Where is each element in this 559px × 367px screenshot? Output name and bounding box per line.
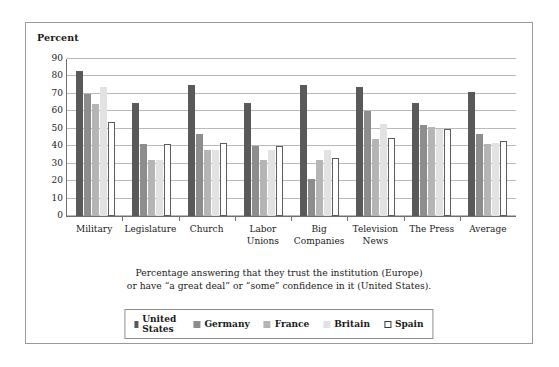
x-axis-cell: Labor Unions <box>235 217 291 261</box>
bar <box>492 143 499 216</box>
bar <box>132 103 139 216</box>
bar <box>76 71 83 216</box>
legend-swatch-icon <box>323 321 330 328</box>
x-axis-cell: Church <box>179 217 235 261</box>
legend-label: Germany <box>204 319 249 329</box>
x-tick <box>347 217 348 221</box>
bar <box>308 179 315 216</box>
bar <box>332 158 339 216</box>
x-axis-cell: Television News <box>347 217 403 261</box>
bar <box>140 144 147 216</box>
x-tick-label: Legislature <box>122 224 178 236</box>
legend-item[interactable]: France <box>264 319 310 329</box>
legend-label: Britain <box>334 319 370 329</box>
legend-swatch-icon <box>264 321 271 328</box>
y-tick-label: 70 <box>52 88 63 98</box>
bar <box>356 87 363 216</box>
bar <box>300 85 307 216</box>
bar <box>428 127 435 216</box>
x-tick <box>291 217 292 221</box>
bar-group <box>179 59 235 216</box>
bar <box>260 160 267 216</box>
y-tick-label: 60 <box>52 105 63 115</box>
bar <box>220 143 227 216</box>
chart-caption: Percentage answering that they trust the… <box>26 266 532 292</box>
y-tick-label: 30 <box>52 158 63 168</box>
bar <box>420 125 427 216</box>
bar-group <box>235 59 291 216</box>
legend-swatch-icon <box>134 321 138 328</box>
bar <box>188 85 195 216</box>
bar <box>92 104 99 216</box>
bar-group <box>348 59 404 216</box>
caption-line-1: Percentage answering that they trust the… <box>26 266 532 279</box>
bar <box>380 124 387 216</box>
bar <box>412 103 419 216</box>
bar-group <box>123 59 179 216</box>
legend-swatch-icon <box>384 321 391 328</box>
bar <box>500 141 507 216</box>
x-tick-label: Church <box>179 224 235 236</box>
bar <box>364 111 371 216</box>
bar <box>468 92 475 216</box>
y-tick-label: 40 <box>52 140 63 150</box>
legend-item[interactable]: United States <box>134 314 179 334</box>
y-tick-label: 20 <box>52 175 63 185</box>
x-tick <box>460 217 461 221</box>
bar <box>444 129 451 216</box>
x-tick-label: Average <box>460 224 516 236</box>
x-tick-label: The Press <box>404 224 460 236</box>
bar <box>484 144 491 216</box>
bar <box>156 160 163 216</box>
x-tick-label: Television News <box>347 224 403 247</box>
bar <box>324 150 331 216</box>
bar <box>252 146 259 216</box>
x-tick <box>179 217 180 221</box>
x-tick <box>404 217 405 221</box>
x-tick-label: Big Companies <box>291 224 347 247</box>
bar-group <box>292 59 348 216</box>
bar <box>196 134 203 216</box>
bars-layer <box>67 59 516 216</box>
x-tick <box>235 217 236 221</box>
bar <box>436 129 443 216</box>
bar <box>100 87 107 216</box>
y-axis-title: Percent <box>37 32 79 43</box>
bar <box>316 160 323 216</box>
plot-area: 0102030405060708090 <box>66 59 516 217</box>
bar <box>108 122 115 216</box>
bar <box>268 150 275 216</box>
bar <box>164 144 171 216</box>
bar <box>276 146 283 216</box>
legend-item[interactable]: Britain <box>323 319 370 329</box>
legend-label: United States <box>142 314 179 334</box>
y-tick-label: 0 <box>57 210 63 220</box>
x-tick-label: Labor Unions <box>235 224 291 247</box>
bar <box>244 103 251 216</box>
legend-item[interactable]: Spain <box>384 319 424 329</box>
bar <box>212 150 219 216</box>
x-tick-label: Military <box>66 224 122 236</box>
legend-swatch-icon <box>193 321 200 328</box>
bar <box>476 134 483 216</box>
x-tick <box>122 217 123 221</box>
caption-line-2: or have “a great deal” or “some” confide… <box>26 279 532 292</box>
x-axis-cell: The Press <box>404 217 460 261</box>
bar-group <box>67 59 123 216</box>
legend-item[interactable]: Germany <box>193 319 249 329</box>
y-tick-label: 50 <box>52 123 63 133</box>
x-axis-cell: Legislature <box>122 217 178 261</box>
y-tick-label: 10 <box>52 193 63 203</box>
y-tick-label: 90 <box>52 53 63 63</box>
legend-label: France <box>275 319 310 329</box>
bar <box>388 138 395 217</box>
bar-group <box>404 59 460 216</box>
x-axis-cell: Military <box>66 217 122 261</box>
x-axis: MilitaryLegislatureChurchLabor UnionsBig… <box>66 217 516 261</box>
legend: United StatesGermanyFranceBritainSpain <box>124 309 433 339</box>
bar <box>84 94 91 216</box>
bar <box>148 160 155 216</box>
bar-group <box>460 59 516 216</box>
figure-frame: Percent 0102030405060708090 MilitaryLegi… <box>25 22 533 344</box>
x-axis-cell: Average <box>460 217 516 261</box>
